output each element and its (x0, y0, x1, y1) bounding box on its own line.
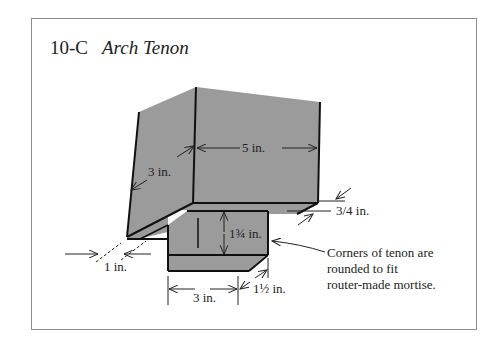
dimension-shoulder-side: 1 in. (65, 241, 151, 274)
corner-note: Corners of tenon are rounded to fit rout… (327, 245, 477, 293)
label-block-depth: 3 in. (148, 164, 171, 179)
label-tenon-width: 3 in. (193, 290, 216, 305)
dimension-tenon-width: 3 in. (168, 276, 238, 305)
note-line: Corners of tenon are (327, 245, 477, 261)
label-tenon-height: 1¾ in. (229, 226, 262, 241)
arch-tenon-drawing: 5 in. 3 in. 3/4 in. 1 in. 1¾ in. 3 in. (0, 0, 499, 351)
label-block-width: 5 in. (242, 140, 265, 155)
label-tenon-depth: 1½ in. (253, 281, 286, 296)
label-shoulder-offset: 3/4 in. (336, 203, 369, 218)
note-leader (272, 241, 325, 252)
tenon (168, 211, 268, 271)
label-shoulder-side: 1 in. (104, 259, 127, 274)
note-line: rounded to fit (327, 261, 477, 277)
note-line: router-made mortise. (327, 277, 477, 293)
